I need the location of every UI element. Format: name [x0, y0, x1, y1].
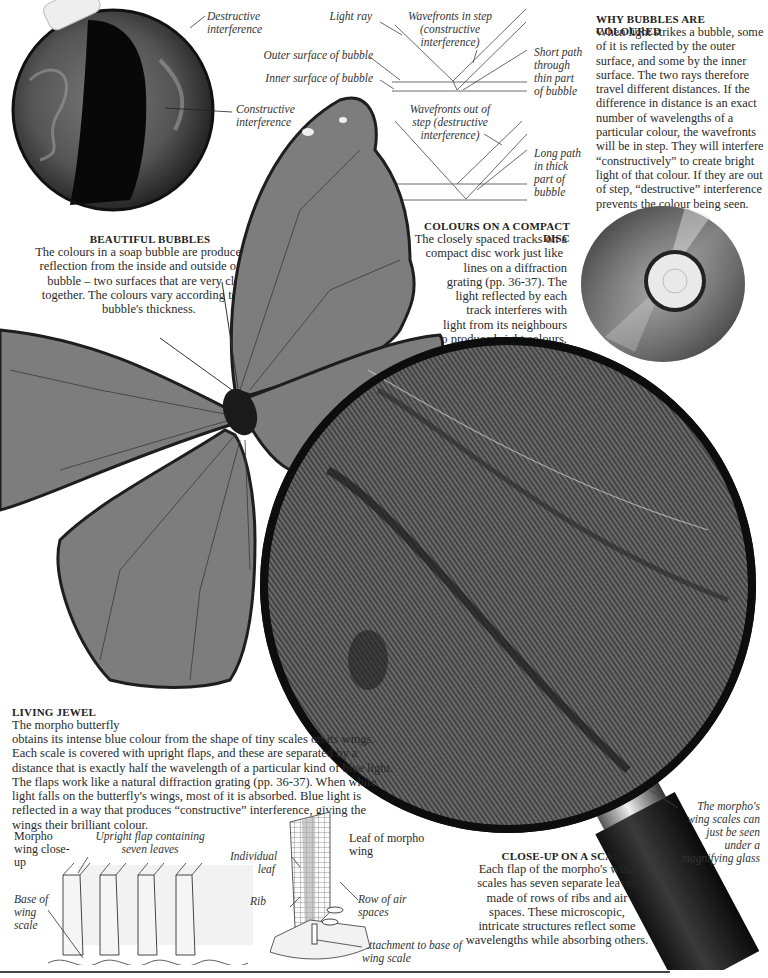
closeup-scale-heading: CLOSE-UP ON A SCALE	[480, 850, 650, 862]
closeup-scale-text: Each flap of the morpho's wing scales ha…	[452, 862, 662, 948]
label-upright-flap: Upright flap containing seven leaves	[90, 830, 210, 856]
closeup-line: Each flap of the morpho's wing	[452, 862, 662, 876]
label-wavefronts-in-step: Wavefronts in step (constructive interfe…	[405, 10, 495, 49]
label-long-path: Long path in thick part of bubble	[534, 147, 584, 199]
closeup-line: made of rows of ribs and air	[452, 891, 662, 905]
closeup-line: intricate structures reflect some	[452, 919, 662, 933]
label-outer-surface: Outer surface of bubble	[260, 49, 373, 62]
living-jewel-first-line: The morpho butterfly	[12, 718, 212, 732]
page-bottom-rule	[0, 971, 670, 973]
label-individual-leaf: Individual leaf	[230, 850, 275, 876]
closeup-line: wavelengths while absorbing others.	[452, 933, 662, 947]
closeup-line: spaces. These microscopic,	[452, 905, 662, 919]
closeup-line: scales has seven separate leaves	[452, 876, 662, 890]
living-jewel-heading: LIVING JEWEL	[12, 706, 212, 718]
label-inner-surface: Inner surface of bubble	[260, 72, 373, 85]
magnifier-caption-leader	[650, 790, 680, 810]
label-light-ray: Light ray	[300, 10, 372, 23]
leaf-diagram	[270, 812, 400, 962]
why-coloured-text: When light strikes a bubble, some of it …	[596, 25, 766, 211]
label-short-path: Short path through thin part of bubble	[534, 46, 584, 98]
label-magnifier-caption: The morpho's wing scales can just be see…	[680, 800, 760, 865]
wing-closeup-diagram	[38, 855, 258, 965]
